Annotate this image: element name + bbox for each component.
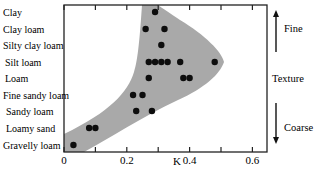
data-point (152, 9, 158, 15)
y-category-label: Sandy loam (6, 106, 54, 117)
fine-arrow (273, 10, 279, 52)
data-point (158, 59, 164, 65)
data-point (86, 125, 92, 131)
data-point (133, 108, 139, 114)
data-point (92, 125, 98, 131)
y-category-label: Fine sandy loam (3, 90, 69, 101)
y-category-label: Silt loam (5, 57, 42, 68)
x-tick-labels: 00.20.40.6 (61, 154, 260, 166)
data-point (161, 26, 167, 32)
x-tick-label: 0.4 (183, 154, 197, 166)
data-point (149, 108, 155, 114)
y-category-label: Clay loam (3, 24, 45, 35)
data-point (139, 92, 145, 98)
x-tick-label: 0 (61, 154, 67, 166)
coarse-label: Coarse (284, 122, 313, 133)
fine-label: Fine (284, 23, 303, 34)
data-point (146, 75, 152, 81)
data-point (146, 59, 152, 65)
arrow-down-icon (273, 137, 279, 144)
data-point (158, 42, 164, 48)
data-point (177, 59, 183, 65)
y-category-label: Silty clay loam (3, 40, 64, 51)
y-category-label: Loamy sand (6, 123, 55, 134)
x-tick-label: 0.6 (246, 154, 260, 166)
y-category-label: Gravelly loam (3, 140, 61, 151)
coarse-arrow (273, 103, 279, 144)
data-point (186, 75, 192, 81)
data-point (152, 59, 158, 65)
data-point (70, 142, 76, 148)
k-factor-texture-chart: ClayClay loamSilty clay loamSilt loamLoa… (0, 0, 315, 169)
y-category-label: Clay (3, 7, 22, 18)
data-point (164, 59, 170, 65)
x-tick-label: 0.2 (120, 154, 134, 166)
x-axis-title: K (173, 155, 181, 167)
data-point (130, 92, 136, 98)
y-category-labels: ClayClay loamSilty clay loamSilt loamLoa… (3, 7, 69, 151)
data-point (212, 59, 218, 65)
data-point (142, 26, 148, 32)
data-point (180, 75, 186, 81)
texture-label: Texture (272, 73, 304, 84)
y-category-label: Loam (5, 73, 29, 84)
arrow-up-icon (273, 10, 279, 17)
